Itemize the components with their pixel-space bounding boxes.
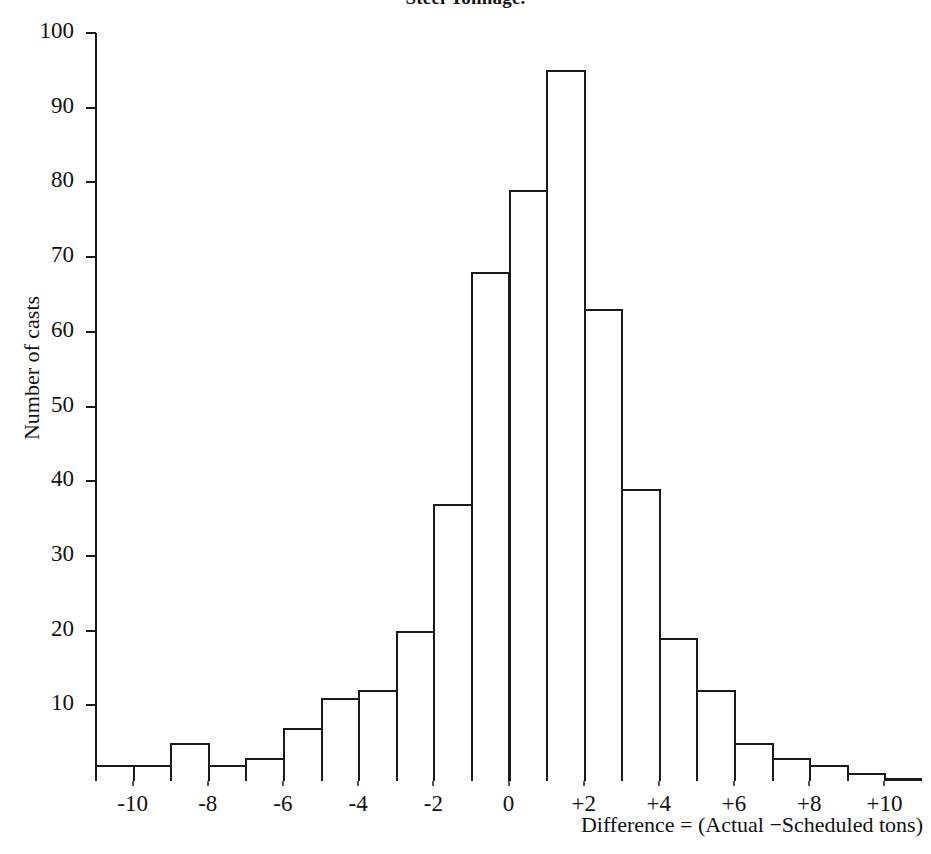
histogram-bar xyxy=(734,743,774,781)
x-axis-tick xyxy=(432,781,434,786)
x-axis-tick xyxy=(733,781,735,786)
x-axis-tick-label: -10 xyxy=(117,791,148,817)
histogram-bar xyxy=(133,765,173,781)
x-axis-tick-label: -4 xyxy=(349,791,368,817)
y-axis-tick: 30 xyxy=(86,555,96,557)
page-title: Steel Tonnage. xyxy=(0,0,931,9)
y-axis-tick-label: 100 xyxy=(40,19,75,42)
x-axis-tick xyxy=(658,781,660,786)
y-axis-title: Number of casts xyxy=(19,238,45,498)
histogram-bar xyxy=(509,190,549,781)
histogram-bar xyxy=(321,698,361,781)
histogram-bar xyxy=(584,309,624,781)
histogram-bar xyxy=(471,272,511,781)
x-axis-tick-label: -6 xyxy=(273,791,292,817)
x-axis-tick xyxy=(132,781,134,786)
plot-area: 100908070605040302010 -10-8-6-4-20+2+4+6… xyxy=(95,33,922,780)
x-axis-tick xyxy=(883,781,885,786)
y-axis-tick: 90 xyxy=(86,107,96,109)
histogram-bar xyxy=(621,489,661,781)
y-axis-tick-label: 30 xyxy=(51,542,74,565)
y-axis-tick: 10 xyxy=(86,704,96,706)
histogram-figure: Steel Tonnage. Number of casts 100908070… xyxy=(0,0,931,854)
y-axis-tick-label: 70 xyxy=(51,243,74,266)
histogram-bar xyxy=(847,773,887,781)
x-axis-tick xyxy=(808,781,810,786)
histogram-bar xyxy=(358,690,398,781)
x-axis-tick xyxy=(207,781,209,786)
histogram-bar xyxy=(245,758,285,781)
histogram-bar xyxy=(283,728,323,781)
y-axis-tick: 100 xyxy=(86,32,96,34)
y-axis-tick-label: 10 xyxy=(51,691,74,714)
y-axis-tick: 80 xyxy=(86,181,96,183)
histogram-bar xyxy=(809,765,849,781)
y-axis-tick: 70 xyxy=(86,256,96,258)
y-axis-tick-label: 50 xyxy=(51,393,74,416)
y-axis-tick: 20 xyxy=(86,630,96,632)
x-axis-tick xyxy=(583,781,585,786)
histogram-bar xyxy=(170,743,210,781)
histogram-bar xyxy=(396,631,436,781)
histogram-bar xyxy=(433,504,473,781)
histogram-bar xyxy=(659,638,699,781)
x-axis-caption: Difference = (Actual −Scheduled tons) xyxy=(581,812,923,838)
histogram-bar xyxy=(208,765,248,781)
x-axis-tick xyxy=(357,781,359,786)
x-axis-tick-label: -2 xyxy=(424,791,443,817)
y-axis-tick-label: 40 xyxy=(51,467,74,490)
y-axis-tick-label: 80 xyxy=(51,168,74,191)
histogram-bar xyxy=(696,690,736,781)
y-axis-tick-label: 60 xyxy=(51,318,74,341)
y-axis-tick: 50 xyxy=(86,406,96,408)
x-axis-tick-label: 0 xyxy=(503,791,515,817)
histogram-bar xyxy=(772,758,812,781)
y-axis-tick: 60 xyxy=(86,331,96,333)
histogram-bar xyxy=(546,70,586,781)
x-axis-tick xyxy=(282,781,284,786)
x-axis-tick-label: -8 xyxy=(198,791,217,817)
y-axis-tick-label: 20 xyxy=(51,617,74,640)
y-axis-tick: 40 xyxy=(86,480,96,482)
x-axis-tick xyxy=(508,781,510,786)
y-axis-tick-label: 90 xyxy=(51,94,74,117)
histogram-bar xyxy=(95,765,135,781)
